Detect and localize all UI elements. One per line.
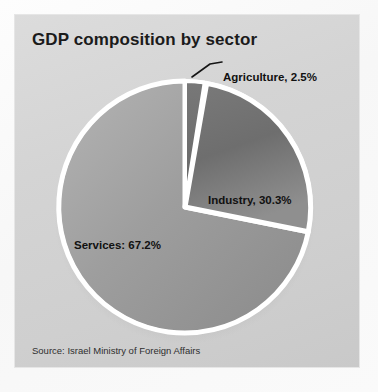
source-note: Source: Israel Ministry of Foreign Affai… [32,345,200,356]
pie-label-services: Services: 67.2% [74,239,161,251]
agriculture-leader-line [192,62,222,77]
page-background: GDP composition by sector [0,0,378,392]
pie-label-agriculture: Agriculture, 2.5% [223,71,317,83]
pie-slice-industry[interactable] [185,83,311,231]
chart-panel: GDP composition by sector [14,14,360,368]
pie-chart-svg [14,14,360,368]
pie-chart [14,14,360,368]
pie-label-industry: Industry, 30.3% [208,194,292,206]
